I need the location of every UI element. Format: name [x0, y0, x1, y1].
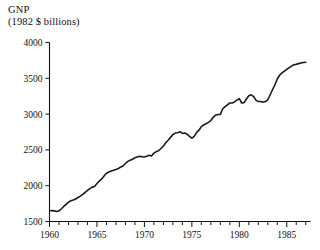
gnp-line-chart: 150020002500300035004000 196019651970197… [0, 0, 320, 250]
y-tick-label: 1500 [24, 217, 43, 227]
y-tick-label: 3500 [24, 74, 43, 84]
x-tick-label: 1980 [230, 230, 249, 240]
chart-figure: GNP (1982 $ billions) 150020002500300035… [0, 0, 320, 250]
gnp-series-line [50, 62, 306, 211]
x-tick-mark-group [50, 222, 306, 228]
x-tick-label: 1970 [135, 230, 154, 240]
y-tick-mark-group [46, 43, 50, 222]
x-tick-label-group: 196019651970197519801985 [40, 230, 297, 240]
x-tick-label: 1965 [87, 230, 106, 240]
x-tick-label: 1960 [40, 230, 59, 240]
y-tick-label-group: 150020002500300035004000 [24, 38, 43, 227]
y-tick-label: 2500 [24, 145, 43, 155]
y-tick-label: 2000 [24, 181, 43, 191]
x-tick-label: 1985 [277, 230, 296, 240]
x-tick-label: 1975 [182, 230, 201, 240]
y-tick-label: 3000 [24, 110, 43, 120]
y-tick-label: 4000 [24, 38, 43, 48]
